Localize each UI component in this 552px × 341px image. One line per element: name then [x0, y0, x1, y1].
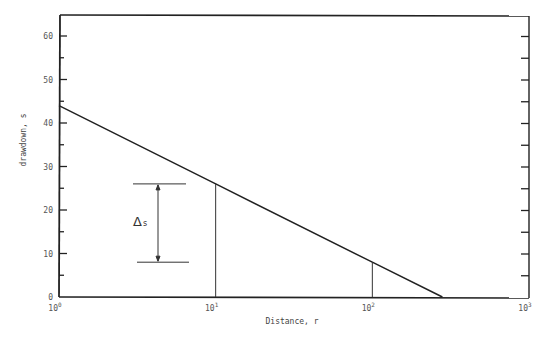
y-tick-label: 50 — [43, 76, 53, 85]
vertical-reference-lines — [216, 184, 373, 297]
drawdown-chart: 0102030405060 100101102103 Distance, r d… — [0, 0, 552, 341]
y-tick-label: 40 — [43, 119, 53, 128]
y-tick-label: 10 — [43, 250, 53, 259]
x-tick-label: 103 — [518, 301, 532, 313]
arrow-up-icon — [156, 185, 160, 190]
plot-frame — [59, 15, 529, 298]
y-tick-label: 0 — [48, 293, 53, 302]
top-axis — [60, 15, 529, 16]
y-axis-label: drawdown, s — [19, 113, 28, 166]
drawdown-line — [59, 106, 442, 297]
arrow-down-icon — [156, 256, 160, 261]
delta-s-label: Δs — [133, 214, 147, 229]
x-tick-label: 101 — [205, 301, 219, 313]
x-tick-labels: 100101102103 — [48, 301, 532, 313]
y-tick-label: 60 — [43, 32, 53, 41]
x-axis-label: Distance, r — [266, 317, 319, 326]
y-tick-labels: 0102030405060 — [43, 32, 53, 302]
y-tick-label: 20 — [43, 206, 53, 215]
x-tick-label: 102 — [362, 301, 376, 313]
x-tick-label: 100 — [48, 301, 62, 313]
right-axis-ticks — [521, 37, 529, 276]
y-tick-label: 30 — [43, 163, 53, 172]
x-axis — [59, 297, 529, 298]
